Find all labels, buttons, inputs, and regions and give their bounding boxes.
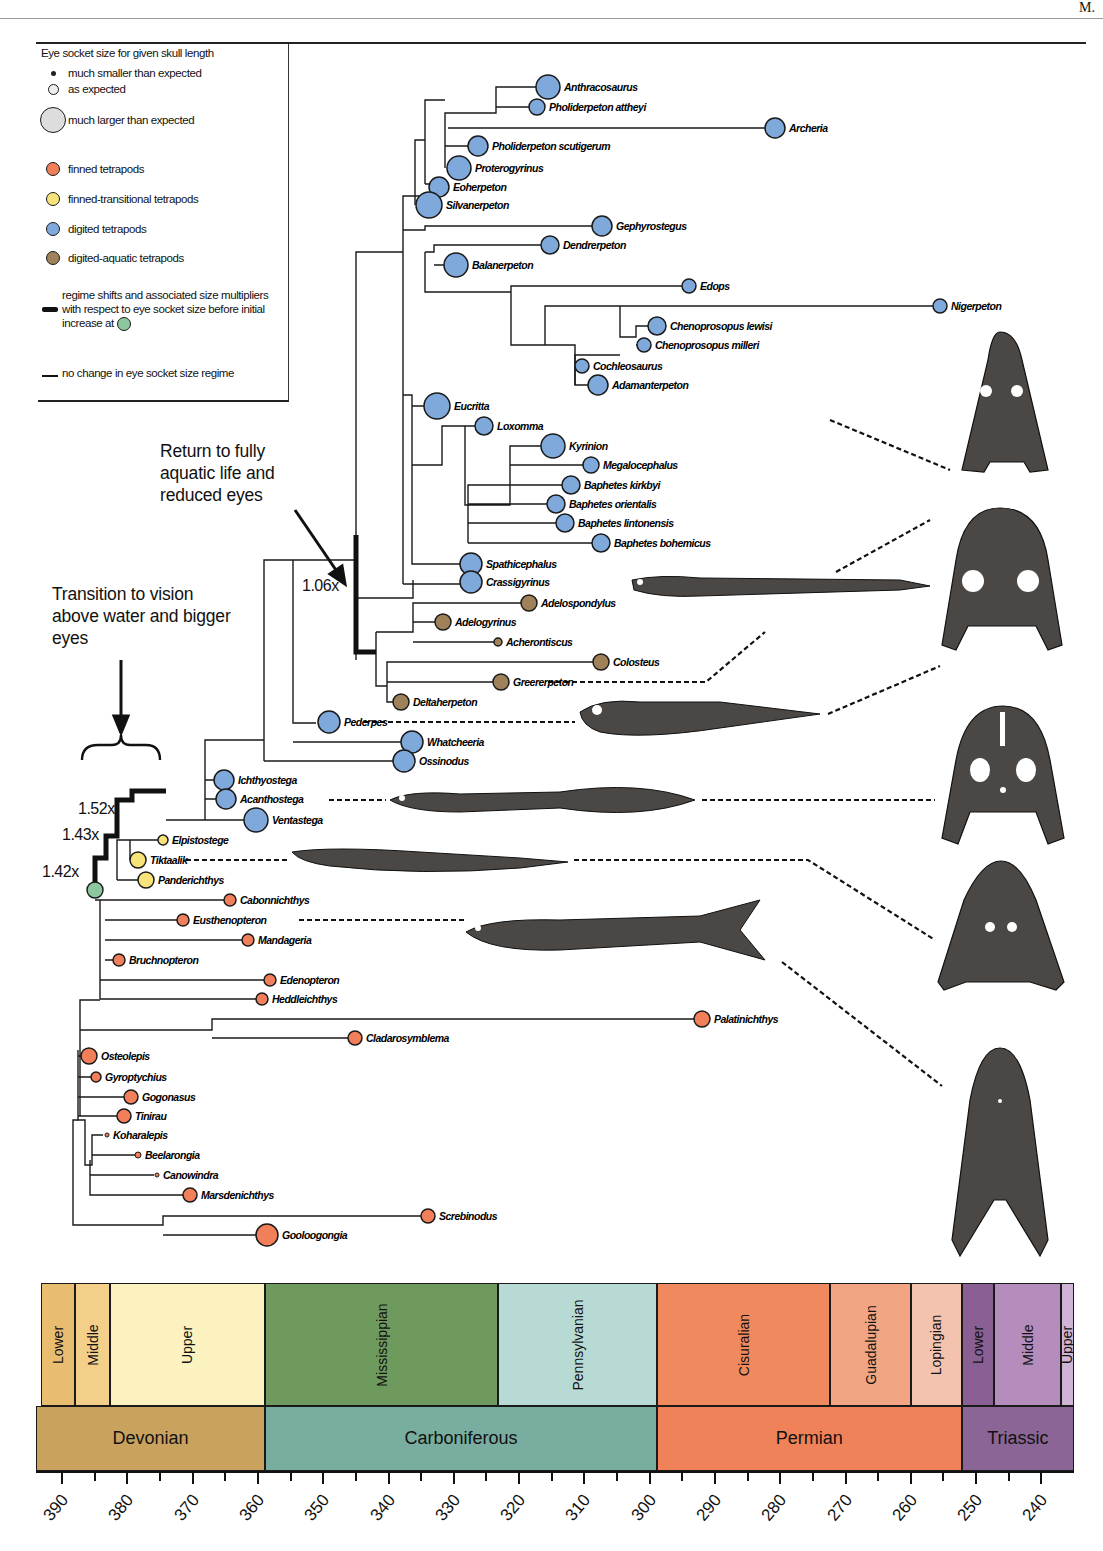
taxon-label: Beelarongia: [145, 1149, 200, 1161]
axis-tick-label: 360: [235, 1491, 269, 1526]
taxon-label: Acanthostega: [239, 793, 304, 805]
taxon-label: Gooloogongia: [282, 1229, 348, 1241]
taxon-node: [183, 1188, 197, 1202]
large-circle-icon: [40, 107, 66, 133]
thick-line-icon: [42, 307, 58, 312]
taxon-node: [216, 789, 236, 809]
period-label: Triassic: [987, 1428, 1048, 1449]
taxon-node: [637, 338, 651, 352]
taxon-label: Gogonasus: [142, 1091, 196, 1103]
eusthenopteron-silhouette: [466, 900, 765, 960]
axis-tick: [812, 1472, 814, 1481]
taxon-node: [264, 974, 276, 986]
taxon-label: Screbinodus: [439, 1210, 498, 1222]
epoch-label: Mississippian: [374, 1303, 390, 1386]
taxon-label: Panderichthys: [158, 874, 225, 886]
skull-tiktaalik: [938, 861, 1064, 990]
period-carboniferous: Carboniferous: [265, 1406, 657, 1471]
transitional-color-icon: [46, 192, 60, 206]
taxon-node: [421, 1209, 435, 1223]
aquatic-color-icon: [46, 251, 60, 265]
axis-tick-label: 390: [40, 1491, 74, 1526]
taxon-label: Adelospondylus: [540, 597, 616, 609]
epoch-label: Upper: [179, 1325, 195, 1363]
taxon-label: Chenoprosopus lewisi: [670, 320, 774, 332]
taxon-node: [424, 393, 450, 419]
taxon-node: [393, 750, 415, 772]
axis-tick: [322, 1472, 324, 1484]
epoch-label: Upper: [1061, 1325, 1074, 1363]
taxon-node: [117, 1109, 131, 1123]
axis-tick: [1040, 1472, 1042, 1484]
pederpes-silhouette: [580, 701, 820, 735]
taxon-node: [583, 457, 599, 473]
acanthostega-silhouette: [390, 788, 695, 813]
axis-tick: [877, 1472, 879, 1481]
taxon-node: [393, 694, 409, 710]
legend-finned: finned tetrapods: [38, 162, 144, 176]
axis-tick: [975, 1472, 977, 1484]
taxon-label: Megalocephalus: [603, 459, 678, 471]
taxon-label: Whatcheeria: [427, 736, 485, 748]
taxon-label: Gyroptychius: [105, 1071, 167, 1083]
taxon-node: [256, 993, 268, 1005]
taxon-label: Crassigyrinus: [486, 576, 550, 588]
taxon-node: [765, 118, 785, 138]
taxon-label: Silvanerpeton: [446, 199, 509, 211]
axis-tick: [355, 1472, 357, 1481]
taxon-node: [494, 638, 502, 646]
taxon-node: [529, 99, 545, 115]
taxon-node: [648, 317, 666, 335]
taxon-label: Pederpes: [344, 716, 388, 728]
taxon-node: [242, 934, 254, 946]
taxon-node: [318, 711, 340, 733]
taxon-label: Dendrerpeton: [563, 239, 626, 251]
epoch-label: Cisuralian: [736, 1313, 752, 1375]
taxon-node: [562, 476, 580, 494]
taxon-node: [416, 192, 442, 218]
taxon-node: [694, 1011, 710, 1027]
taxon-node: [158, 835, 168, 845]
animal-silhouettes: [292, 576, 930, 960]
skull-nigerpeton: [962, 332, 1048, 472]
taxon-node: [214, 770, 234, 790]
taxon-node: [493, 674, 509, 690]
taxon-label: Loxomma: [497, 420, 544, 432]
axis-tick: [779, 1472, 781, 1484]
taxon-label: Osteolepis: [101, 1050, 150, 1062]
taxon-label: Ventastega: [272, 814, 323, 826]
axis-tick-label: 240: [1019, 1491, 1053, 1526]
axis-tick: [290, 1472, 292, 1481]
taxon-node: [138, 872, 154, 888]
taxon-label: Bruchnopteron: [129, 954, 198, 966]
taxon-label: Tiktaalik: [150, 854, 189, 866]
axis-tick-label: 380: [105, 1491, 139, 1526]
taxon-label: Acherontiscus: [505, 636, 573, 648]
taxon-label: Colosteus: [613, 656, 660, 668]
taxon-label: Kyrinion: [569, 440, 608, 452]
taxon-label: Koharalepis: [113, 1129, 168, 1141]
taxon-node: [541, 434, 565, 458]
taxon-label: Baphetes kirkbyi: [584, 479, 662, 491]
taxon-node: [592, 534, 610, 552]
epoch-label: Middle: [84, 1324, 100, 1365]
axis-tick-label: 340: [366, 1491, 400, 1526]
taxon-label: Tinirau: [135, 1110, 167, 1122]
epoch-upper: Upper: [1061, 1283, 1074, 1406]
epoch-label: Pennsylvanian: [570, 1299, 586, 1390]
axis-tick: [126, 1472, 128, 1484]
taxon-node: [521, 595, 537, 611]
axis-tick: [224, 1472, 226, 1481]
taxon-label: Archeria: [788, 122, 828, 134]
taxon-node: [124, 1090, 138, 1104]
taxon-label: Pholiderpeton attheyi: [549, 101, 647, 113]
period-triassic: Triassic: [962, 1406, 1074, 1471]
taxon-node: [444, 253, 468, 277]
taxon-node: [256, 1224, 278, 1246]
taxon-label: Edops: [700, 280, 730, 292]
taxon-node: [244, 808, 268, 832]
annotation-return-aquatic: Return to fully aquatic life and reduced…: [160, 440, 310, 506]
multiplier-1-42: 1.42x: [42, 863, 79, 881]
taxon-label: Cochleosaurus: [593, 360, 663, 372]
axis-tick: [453, 1472, 455, 1484]
